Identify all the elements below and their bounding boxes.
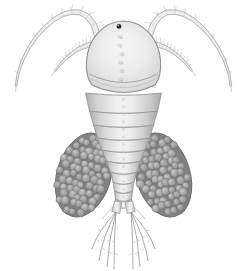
- carapace-texture-dot: [121, 55, 123, 57]
- tail-seta: [99, 212, 116, 261]
- antenna-seta: [72, 5, 73, 10]
- antenna-seta: [171, 44, 172, 49]
- antenna-tip-seta: [192, 71, 196, 76]
- copepod-figure: [0, 0, 246, 271]
- antenna-seta: [25, 45, 27, 48]
- seta-barb: [114, 253, 118, 255]
- antenna-seta: [62, 56, 64, 59]
- tail-seta: [131, 212, 148, 261]
- tail-seta: [92, 212, 116, 249]
- antenna-seta: [42, 23, 44, 27]
- antenna-seta: [84, 41, 86, 44]
- antenna-seta: [70, 7, 72, 10]
- antenna-seta: [204, 23, 206, 27]
- antenna-seta: [177, 49, 178, 53]
- seta-barb: [134, 252, 138, 255]
- antenna-seta: [76, 44, 77, 49]
- antenna-seta: [163, 6, 166, 10]
- eye-glint: [117, 25, 119, 27]
- antenna-seta: [79, 41, 80, 46]
- caudal-ramus: [125, 201, 135, 214]
- antenna-seta: [56, 64, 57, 66]
- antenna-seta: [15, 71, 17, 73]
- antenna-seta: [174, 5, 175, 10]
- antenna-seta: [219, 45, 221, 48]
- antenna-seta: [230, 71, 232, 73]
- antenna-seta: [96, 22, 102, 23]
- antenna-seta: [81, 6, 84, 10]
- carapace-texture-dot: [121, 80, 123, 82]
- carapace-texture-dot: [120, 38, 122, 40]
- carapace-texture-dot: [121, 63, 123, 65]
- carapace-texture-dot: [120, 46, 122, 48]
- antenna-seta: [189, 64, 190, 66]
- tail-seta: [131, 212, 155, 249]
- illustration-canvas: [0, 0, 246, 271]
- antenna-seta: [160, 41, 162, 44]
- body-segment: [86, 93, 162, 113]
- seta-barb: [148, 239, 151, 243]
- antenna-seta: [69, 49, 70, 53]
- caudal-ramus: [112, 201, 122, 214]
- seta-barb: [108, 252, 112, 255]
- antenna-seta: [226, 58, 228, 60]
- antenna-seta: [183, 56, 185, 59]
- antenna-seta: [175, 7, 177, 10]
- seta-barb: [96, 239, 99, 243]
- antenna-seta: [145, 22, 151, 23]
- tail-furca: [92, 201, 155, 269]
- seta-barb: [102, 247, 106, 250]
- antenna-seta: [156, 36, 157, 42]
- carapace-texture-dot: [121, 72, 123, 74]
- eye-spot: [117, 24, 122, 29]
- seta-barb: [141, 247, 145, 250]
- antenna-seta: [90, 36, 91, 42]
- seta-barb: [128, 253, 132, 255]
- antenna-tip-seta: [51, 71, 55, 76]
- antenna-seta: [167, 41, 168, 46]
- antenna-seta: [19, 58, 21, 60]
